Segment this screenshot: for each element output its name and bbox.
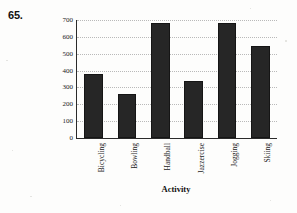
gridline [77,87,277,88]
problem-number: 65. [8,9,23,21]
bar [218,23,237,138]
y-tick-label: 500 [63,50,74,58]
bar-chart-figure: Number of calories burned in one hour 01… [36,12,288,210]
x-tick-label: Jogging [230,143,239,167]
plot-area: 0100200300400500600700BicyclingBowlingHa… [76,20,277,139]
scan-speckle [6,60,8,61]
bar [184,81,203,138]
gridline [77,71,277,72]
y-tick-label: 200 [63,100,74,108]
bar [151,23,170,138]
y-tick-label: 700 [63,16,74,24]
x-axis-title: Activity [76,184,276,194]
scan-speckle [12,150,13,151]
y-tick-label: 600 [63,33,74,41]
scan-speckle [30,196,32,197]
scan-speckle [250,8,251,9]
y-tick-label: 100 [63,117,74,125]
y-tick-label: 300 [63,83,74,91]
gridline [77,104,277,105]
bar [251,46,270,138]
y-tick-label: 400 [63,67,74,75]
bar [118,94,137,138]
y-axis-title: Number of calories burned in one hour [32,0,54,16]
x-tick-label: Jazzercise [197,143,206,173]
x-tick-label: Skiing [263,143,272,163]
gridline [77,54,277,55]
x-tick-label: Bicycling [97,143,106,172]
textbook-page: 65. Number of calories burned in one hou… [0,0,297,213]
gridline [77,121,277,122]
bar [84,74,103,138]
x-tick-label: Bowling [130,143,139,169]
gridline [77,37,277,38]
x-tick-label: Handball [163,143,172,171]
y-tick-label: 0 [70,134,74,142]
gridline [77,20,277,21]
